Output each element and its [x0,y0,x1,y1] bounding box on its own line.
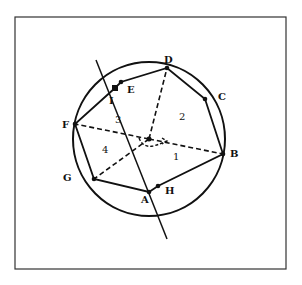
vertex-e-marker [119,80,124,85]
vertex-i-label: I [109,95,114,106]
spoke-d [149,68,167,139]
vertex-a-label: A [140,194,149,205]
geometry-diagram: ABCDEFGHI 1234 [0,0,302,285]
vertex-c-marker [203,97,208,102]
region-3-label: 3 [115,114,121,125]
vertex-g-marker [92,177,97,182]
region-2-label: 2 [179,111,185,122]
vertex-h-label: H [165,185,174,196]
vertex-b-marker [221,152,226,157]
spoke-b [149,139,223,154]
vertex-f-marker [73,122,78,127]
vertex-b-label: B [230,148,238,159]
center-point [147,137,152,142]
spoke-f [75,124,149,139]
region-4-label: 4 [102,144,108,155]
region-1-label: 1 [173,151,179,162]
dashed-spokes [75,68,223,179]
vertex-e-label: E [127,84,135,95]
vertex-f-label: F [62,119,69,130]
vertex-g-label: G [63,172,72,183]
figure-frame [15,17,286,269]
vertex-c-label: C [218,91,226,102]
vertex-d-marker [165,66,170,71]
vertex-h-marker [156,184,161,189]
vertex-d-label: D [164,54,173,65]
vertex-i-marker [112,85,118,91]
region-labels: 1234 [102,111,185,162]
polygon [75,68,223,192]
